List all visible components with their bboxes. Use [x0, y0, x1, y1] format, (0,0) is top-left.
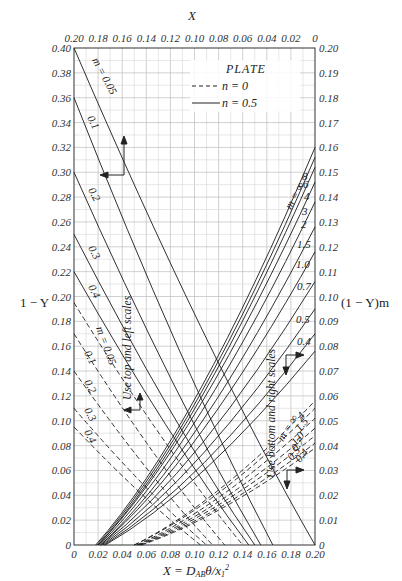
curve-label: 1.5: [297, 238, 311, 250]
right-axis-title: (1 − Y)m: [341, 295, 389, 310]
bottom-tick-label: 0.14: [233, 548, 253, 560]
bottom-tick-label: 0.06: [137, 548, 157, 560]
right-tick-label: 0.05: [319, 415, 339, 427]
right-tick-label: 0: [319, 539, 325, 551]
curve-label: 6: [303, 178, 309, 190]
right-tick-label: 0.08: [319, 340, 339, 352]
bottom-tick-label: 0.08: [161, 548, 181, 560]
left-tick-label: 0.14: [52, 365, 72, 377]
right-tick-label: 0.03: [319, 464, 339, 476]
bottom-tick-label: 0: [71, 548, 77, 560]
right-tick-label: 0.04: [319, 440, 339, 452]
curve-label: 0.2: [82, 377, 99, 395]
top-tick-label: 0: [312, 32, 318, 44]
curve-label: 4: [304, 190, 310, 202]
right-tick-label: 0.20: [319, 42, 339, 54]
top-tick-label: 0.10: [185, 32, 205, 44]
right-tick-label: 0.18: [319, 92, 339, 104]
left-tick-label: 0.20: [52, 291, 72, 303]
right-tick-label: 0.17: [319, 117, 339, 129]
bottom-tick-label: 0.18: [281, 548, 301, 560]
top-tick-label: 0.16: [113, 32, 133, 44]
chart: 0.200.180.160.140.120.100.080.060.040.02…: [0, 0, 402, 581]
left-axis-ticks: 00.020.040.060.080.100.120.140.160.180.2…: [52, 42, 72, 551]
left-tick-label: 0.28: [52, 191, 72, 203]
left-tick-label: 0.36: [52, 92, 72, 104]
right-tick-label: 0.09: [319, 315, 339, 327]
top-tick-label: 0.02: [281, 32, 301, 44]
left-tick-label: 0.02: [52, 514, 72, 526]
curve-label: 0.4: [297, 335, 311, 347]
right-tick-label: 0.06: [319, 390, 339, 402]
right-tick-label: 0.15: [319, 166, 339, 178]
arrow-indicator-bottom-right-dashed: [284, 467, 304, 489]
curve-label: 0.1: [85, 113, 102, 131]
curve-label: 2: [301, 218, 307, 230]
curve-label: 0.3: [86, 243, 103, 261]
curve-label: 0.4: [82, 427, 99, 445]
left-tick-label: 0.32: [52, 141, 72, 153]
bottom-axis-title: X = DABθ/x12: [162, 563, 229, 579]
top-axis-title: X: [187, 8, 197, 23]
left-tick-label: 0.16: [52, 340, 72, 352]
left-tick-label: 0.34: [52, 117, 72, 129]
left-tick-label: 0.08: [52, 440, 72, 452]
left-tick-label: 0.38: [52, 67, 72, 79]
legend: PLATE n = 0 n = 0.5: [190, 60, 300, 112]
right-tick-label: 0.14: [319, 191, 339, 203]
legend-title: PLATE: [225, 62, 266, 76]
right-tick-label: 0.11: [319, 266, 337, 278]
curve-label: 0.7: [297, 280, 311, 292]
left-tick-label: 0.40: [52, 42, 72, 54]
bottom-axis-ticks: 00.020.040.060.080.100.120.140.160.180.2…: [71, 548, 325, 560]
right-tick-label: 0.13: [319, 216, 339, 228]
left-tick-label: 0.26: [52, 216, 72, 228]
top-axis-ticks: 0.200.180.160.140.120.100.080.060.040.02…: [64, 32, 318, 44]
curve-label: 0.2: [86, 185, 103, 203]
right-tick-label: 0.01: [319, 514, 338, 526]
legend-dashed-label: n = 0: [222, 79, 248, 93]
left-tick-label: 0.22: [52, 266, 72, 278]
top-tick-label: 0.06: [233, 32, 253, 44]
left-tick-label: 0.10: [52, 415, 72, 427]
grid-lines: [74, 48, 315, 545]
bottom-tick-label: 0.04: [113, 548, 133, 560]
top-tick-label: 0.12: [161, 32, 181, 44]
left-tick-label: 0.04: [52, 489, 72, 501]
left-tick-label: 0: [66, 539, 72, 551]
arrow-indicator-bottom-right: [283, 352, 304, 375]
left-axis-title: 1 − Y: [20, 295, 50, 310]
bottom-tick-label: 0.10: [185, 548, 205, 560]
right-tick-label: 0.16: [319, 141, 339, 153]
left-tick-label: 0.24: [52, 241, 72, 253]
left-tick-label: 0.06: [52, 464, 72, 476]
right-tick-label: 0.10: [319, 291, 339, 303]
curve-bottom-right-solid-m-0.4: [105, 351, 315, 545]
curve-label: 3: [301, 205, 308, 217]
right-tick-label: 0.19: [319, 67, 339, 79]
right-tick-label: 0.07: [319, 365, 339, 377]
legend-solid-label: n = 0.5: [222, 96, 257, 110]
right-tick-label: 0.02: [319, 489, 339, 501]
bottom-tick-label: 0.16: [257, 548, 277, 560]
curve-label: m = 0.05: [90, 55, 120, 96]
note-bottom-right-scales: Use bottom and right scales: [265, 348, 278, 478]
right-tick-label: 0.12: [319, 241, 339, 253]
note-top-left-scales: Use top and left scales: [121, 295, 134, 400]
top-tick-label: 0.18: [88, 32, 108, 44]
top-tick-label: 0.08: [209, 32, 229, 44]
curve-top-left-solid-m-0.3: [74, 234, 255, 545]
right-axis-ticks: 00.010.020.030.040.050.060.070.080.090.1…: [319, 42, 339, 551]
curve-label: 1.0: [296, 258, 310, 270]
bottom-tick-label: 0.02: [88, 548, 108, 560]
left-tick-label: 0.12: [52, 390, 72, 402]
bottom-tick-label: 0.12: [209, 548, 229, 560]
curve-label: 0.5: [296, 313, 310, 325]
top-tick-label: 0.14: [137, 32, 157, 44]
top-tick-label: 0.04: [257, 32, 277, 44]
left-tick-label: 0.30: [52, 166, 72, 178]
left-tick-label: 0.18: [52, 315, 72, 327]
